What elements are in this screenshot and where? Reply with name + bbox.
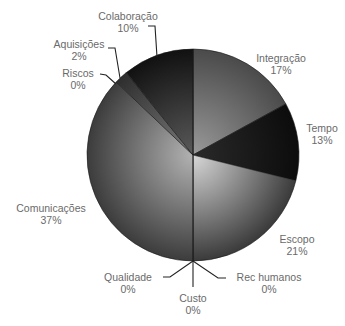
label-integracao: Integração17%	[256, 52, 306, 76]
leader-riscos	[100, 74, 116, 84]
label-comunicacoes: Comunicações37%	[16, 202, 85, 226]
label-riscos: Riscos0%	[62, 67, 94, 91]
leader-rec-humanos	[193, 261, 226, 278]
label-colaboracao: Colaboração10%	[98, 10, 158, 34]
label-aquisicoes: Aquisições2%	[54, 38, 105, 62]
label-escopo: Escopo21%	[279, 233, 314, 257]
label-rec-humanos: Rec humanos0%	[237, 271, 302, 295]
leader-qualidade	[163, 261, 193, 277]
label-qualidade: Qualidade0%	[104, 271, 152, 295]
label-custo: Custo0%	[179, 292, 206, 316]
leader-aquisicoes	[108, 48, 120, 78]
label-tempo: Tempo13%	[306, 122, 338, 146]
